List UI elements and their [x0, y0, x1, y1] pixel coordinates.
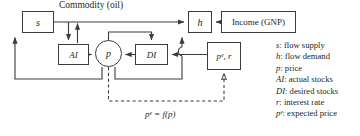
legend-item: r: interest rate — [276, 97, 360, 108]
legend-item: h: flow demand — [276, 51, 360, 62]
expectation-equation: pᵉ = f(p) — [145, 110, 175, 119]
node-desired-stocks[interactable]: DI — [135, 44, 168, 65]
legend: s: flow supply h: flow demand p: price A… — [276, 40, 360, 120]
legend-item: pᵉ: expected price — [276, 108, 360, 119]
node-flow-demand-label: h — [198, 17, 203, 28]
node-actual-stocks-label: AI — [69, 50, 78, 60]
node-income-gnp[interactable]: Income (GNP) — [221, 11, 296, 33]
legend-item: AI: actual stocks — [276, 74, 360, 85]
legend-symbol: AI — [276, 74, 284, 84]
node-expected-price-interest-label: pᵉ, r — [217, 51, 232, 61]
commodity-flow-label: Commodity (oil) — [59, 1, 123, 11]
node-expected-price-interest[interactable]: pᵉ, r — [207, 42, 241, 70]
legend-definition: : expected price — [283, 108, 337, 118]
node-price-label: p — [106, 48, 111, 59]
node-flow-supply-label: s — [36, 17, 40, 28]
node-income-gnp-label: Income (GNP) — [232, 17, 285, 27]
legend-item: DI: desired stocks — [276, 86, 360, 97]
legend-definition: : interest rate — [279, 97, 324, 107]
node-flow-supply[interactable]: s — [22, 11, 54, 33]
legend-definition: : flow demand — [280, 51, 330, 61]
legend-definition: : price — [280, 63, 302, 73]
node-desired-stocks-label: DI — [147, 50, 157, 60]
legend-item: p: price — [276, 63, 360, 74]
legend-item: s: flow supply — [276, 40, 360, 51]
legend-definition: : actual stocks — [284, 74, 333, 84]
legend-symbol: DI — [276, 86, 285, 96]
flow-diagram: Commodity (oil) s h Income (GNP) AI DI p… — [0, 0, 360, 136]
node-flow-demand[interactable]: h — [188, 11, 212, 33]
legend-definition: : flow supply — [279, 40, 324, 50]
node-actual-stocks[interactable]: AI — [58, 44, 89, 65]
node-price[interactable]: p — [95, 40, 122, 67]
legend-definition: : desired stocks — [285, 86, 338, 96]
